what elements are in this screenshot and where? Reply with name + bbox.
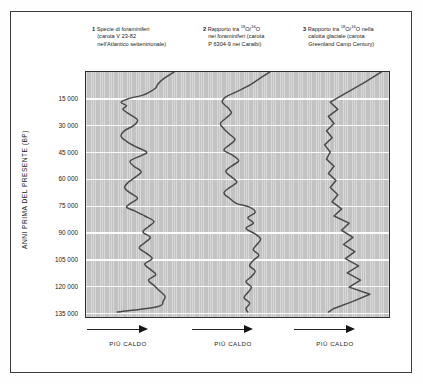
footer-label-1: PIÙ CALDO [73, 340, 183, 347]
y-axis-tick-labels: 15 00030 00045 00060 00075 00090 000105 … [30, 71, 82, 318]
footer-label-2: PIÙ CALDO [178, 340, 288, 347]
y-tick-label: 105 000 [55, 255, 78, 262]
panel-title-line-1a: Specie di foraminiferi [97, 26, 150, 32]
proxy-curves [86, 72, 389, 317]
panel-footer-3: PIÙ CALDO [280, 325, 390, 347]
panel-legend-1: 1 Specie di foraminiferi (carota V 23-82… [92, 26, 207, 48]
climate-proxy-figure: 1 Specie di foraminiferi (carota V 23-82… [0, 0, 423, 384]
panel-title-line-2c: P 6304-9 nei Caraibi) [203, 41, 308, 48]
panel-title-line-3a: Rapporto tra 18O/16O nella [308, 26, 374, 32]
panel-footer-1: PIÙ CALDO [73, 325, 183, 347]
panel-title-line-3c: Greenland Camp Century) [303, 41, 413, 48]
panel-title-line-1c: nell'Atlantico settentrionale) [92, 41, 207, 48]
footer-label-3: PIÙ CALDO [280, 340, 390, 347]
panel-title-line-1b: (carota V 23-82 [92, 33, 207, 40]
panel-title-line-3b: calotta glaciale (carota [303, 33, 413, 40]
panel-title-line-2b: nei foraminiferi (carota [203, 33, 308, 40]
y-tick-label: 90 000 [58, 229, 78, 236]
proxy-curve-2 [220, 72, 269, 312]
panel-number-1: 1 [92, 26, 95, 32]
right-arrow-icon-3 [280, 325, 390, 335]
panel-legend-2: 2 Rapporto tra 18O/16O nei foraminiferi … [203, 26, 308, 48]
panel-number-3: 3 [303, 26, 306, 32]
proxy-curve-3 [325, 72, 382, 312]
y-axis-title: ANNI PRIMA DEL PRESENTE (BP) [21, 100, 28, 280]
y-tick-label: 45 000 [58, 148, 78, 155]
plot-area [85, 71, 390, 318]
right-arrow-icon-1 [73, 325, 183, 335]
panel-title-line-2a: Rapporto tra 18O/16O [208, 26, 260, 32]
y-tick-label: 120 000 [55, 282, 78, 289]
y-tick-label: 135 000 [55, 309, 78, 316]
y-tick-label: 30 000 [58, 121, 78, 128]
panel-legend-3: 3 Rapporto tra 18O/16O nella calotta gla… [303, 26, 413, 48]
right-arrow-icon-2 [178, 325, 288, 335]
proxy-curve-1 [117, 72, 174, 312]
panel-footer-2: PIÙ CALDO [178, 325, 288, 347]
y-tick-label: 60 000 [58, 175, 78, 182]
panel-number-2: 2 [203, 26, 206, 32]
y-tick-label: 75 000 [58, 202, 78, 209]
y-tick-label: 15 000 [58, 94, 78, 101]
